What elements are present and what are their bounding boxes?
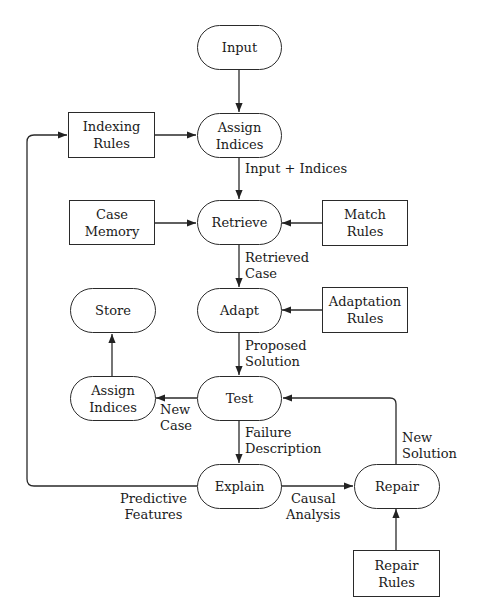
node-repair-rules-label-1: Repair xyxy=(375,557,419,574)
node-match-rules: Match Rules xyxy=(322,200,408,246)
node-test: Test xyxy=(197,376,282,421)
node-case-memory-label-2: Memory xyxy=(85,223,140,240)
node-case-memory-label-1: Case xyxy=(96,206,128,223)
edge-label-predictive-features: Predictive Features xyxy=(120,491,187,523)
node-store-label: Store xyxy=(95,302,131,319)
node-assign-indices-top: Assign Indices xyxy=(197,113,282,158)
edge-label-proposed-solution-1: Proposed xyxy=(245,338,307,354)
node-adapt: Adapt xyxy=(197,288,282,333)
edge-label-predictive-features-2: Features xyxy=(120,507,187,523)
edge-label-retrieved-case-2: Case xyxy=(245,266,309,282)
node-repair-rules: Repair Rules xyxy=(353,550,440,597)
node-input: Input xyxy=(197,25,282,70)
node-explain: Explain xyxy=(197,464,282,509)
node-adapt-label: Adapt xyxy=(220,302,259,319)
edge-label-new-case-1: New xyxy=(160,402,192,418)
node-indexing-rules: Indexing Rules xyxy=(68,112,155,158)
node-test-label: Test xyxy=(226,390,253,407)
node-adaptation-rules-label-2: Rules xyxy=(347,310,384,327)
node-retrieve-label: Retrieve xyxy=(212,214,268,231)
node-indexing-rules-label-1: Indexing xyxy=(83,118,141,135)
node-case-memory: Case Memory xyxy=(69,200,155,245)
edge-label-retrieved-case: Retrieved Case xyxy=(245,250,309,282)
edge-label-proposed-solution-2: Solution xyxy=(245,354,307,370)
edge-label-new-case: New Case xyxy=(160,402,192,434)
edge-label-new-solution-1: New xyxy=(402,430,457,446)
node-assign-indices-bottom-label-2: Indices xyxy=(89,399,137,416)
node-repair-label: Repair xyxy=(375,478,419,495)
edge-label-causal-analysis-2: Analysis xyxy=(286,507,341,523)
node-explain-label: Explain xyxy=(215,478,265,495)
node-assign-indices-top-label-2: Indices xyxy=(216,136,264,153)
node-input-label: Input xyxy=(222,39,257,56)
edge-label-causal-analysis: Causal Analysis xyxy=(286,491,341,523)
node-adaptation-rules-label-1: Adaptation xyxy=(329,293,401,310)
edge-label-failure-description: Failure Description xyxy=(245,425,321,457)
edge-label-new-case-2: Case xyxy=(160,418,192,434)
edge-label-proposed-solution: Proposed Solution xyxy=(245,338,307,370)
edge-label-new-solution: New Solution xyxy=(402,430,457,462)
node-assign-indices-top-label-1: Assign xyxy=(218,119,262,136)
edge-label-new-solution-2: Solution xyxy=(402,446,457,462)
node-repair-rules-label-2: Rules xyxy=(378,574,415,591)
edge-label-retrieved-case-1: Retrieved xyxy=(245,250,309,266)
node-match-rules-label-2: Rules xyxy=(347,223,384,240)
node-indexing-rules-label-2: Rules xyxy=(93,135,130,152)
edge-label-predictive-features-1: Predictive xyxy=(120,491,187,507)
node-retrieve: Retrieve xyxy=(197,200,282,245)
node-assign-indices-bottom-label-1: Assign xyxy=(91,382,135,399)
node-store: Store xyxy=(70,288,156,333)
edge-label-input-indices: Input + Indices xyxy=(245,161,347,177)
node-match-rules-label-1: Match xyxy=(344,206,386,223)
node-adaptation-rules: Adaptation Rules xyxy=(322,287,408,333)
edge-label-failure-description-1: Failure xyxy=(245,425,321,441)
node-assign-indices-bottom: Assign Indices xyxy=(70,376,156,421)
edge-label-causal-analysis-1: Causal xyxy=(286,491,341,507)
node-repair: Repair xyxy=(354,464,440,509)
edge-label-failure-description-2: Description xyxy=(245,441,321,457)
